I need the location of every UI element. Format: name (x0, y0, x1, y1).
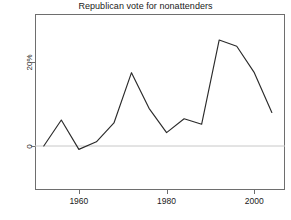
chart-figure: Republican vote for nonattenders Differe… (0, 0, 291, 220)
plot-canvas (35, 14, 285, 190)
x-tick-label-1960: 1960 (59, 196, 99, 206)
x-tick-mark (254, 190, 255, 194)
chart-title: Republican vote for nonattenders (0, 1, 291, 11)
x-tick-mark (79, 190, 80, 194)
data-series-line (44, 40, 272, 149)
x-tick-mark (167, 190, 168, 194)
y-tick-mark (31, 146, 35, 147)
plot-area (35, 14, 285, 190)
y-tick-mark (31, 62, 35, 63)
x-tick-label-1980: 1980 (147, 196, 187, 206)
x-tick-label-2000: 2000 (234, 196, 274, 206)
